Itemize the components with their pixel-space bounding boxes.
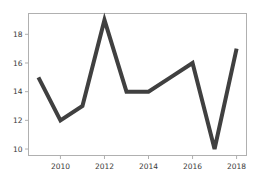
- line-chart: 1012141618 20102012201420162018: [0, 0, 263, 190]
- y-tick-label: 10: [13, 145, 23, 154]
- y-tick-label: 18: [13, 30, 23, 39]
- y-tick-label: 12: [13, 116, 23, 125]
- x-tick-label: 2010: [51, 162, 70, 171]
- y-tick-label: 14: [13, 87, 23, 96]
- x-tick-label: 2018: [227, 162, 246, 171]
- x-tick-label: 2016: [183, 162, 202, 171]
- y-tick-label: 16: [13, 59, 23, 68]
- x-tick-label: 2014: [139, 162, 158, 171]
- figure-canvas: 1012141618 20102012201420162018: [0, 0, 263, 190]
- x-tick-label: 2012: [95, 162, 114, 171]
- axes-frame: [29, 14, 247, 156]
